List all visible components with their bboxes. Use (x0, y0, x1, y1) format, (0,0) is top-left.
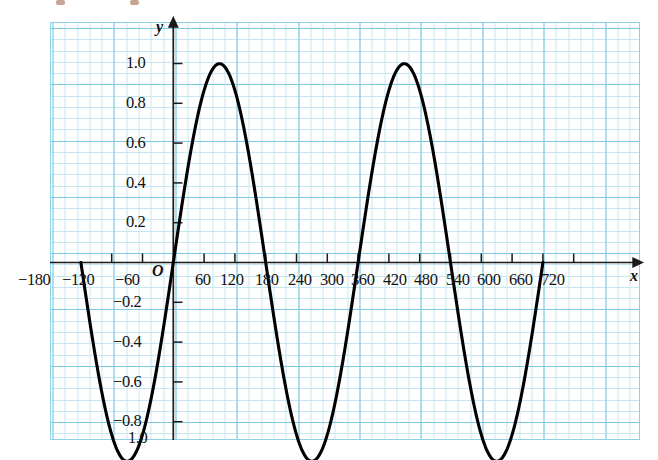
y-tick-label-0.6: 0.6 (126, 133, 145, 153)
y-tick-label-neg0.6: −0.6 (113, 372, 141, 392)
x-axis-name: x (630, 267, 638, 285)
scan-artifact (0, 0, 658, 8)
x-tick-label-300: 300 (320, 270, 344, 290)
y-tick-label-0.2: 0.2 (126, 212, 145, 232)
x-tick-label-120: 120 (220, 270, 244, 290)
x-tick-label-660: 660 (509, 270, 533, 290)
x-tick-label-180: 180 (255, 270, 279, 290)
x-tick-label-neg180: −180 (18, 270, 50, 290)
x-tick-label-540: 540 (446, 270, 470, 290)
y-tick-label-0.4: 0.4 (126, 173, 145, 193)
x-tick-label-420: 420 (383, 270, 407, 290)
y-tick-label-1.0: 1.0 (126, 53, 145, 73)
figure-container: y x O −180 −120 −60 60 120 180 240 300 3… (0, 0, 658, 460)
x-tick-label-720: 720 (541, 270, 565, 290)
x-tick-label-360: 360 (351, 270, 375, 290)
y-axis-name: y (156, 18, 163, 36)
y-tick-label-neg0.2: −0.2 (113, 292, 141, 312)
y-tick-label-neg0.4: −0.4 (113, 332, 141, 352)
y-tick-label-neg1.0: 1.0 (128, 428, 147, 448)
y-tick-label-0.8: 0.8 (126, 93, 145, 113)
x-tick-label-240: 240 (288, 270, 312, 290)
x-tick-label-480: 480 (414, 270, 438, 290)
x-tick-label-neg60: −60 (115, 270, 140, 290)
x-tick-label-600: 600 (477, 270, 501, 290)
x-tick-label-60: 60 (195, 270, 211, 290)
origin-label: O (152, 262, 164, 280)
x-tick-label-neg120: −120 (62, 270, 94, 290)
